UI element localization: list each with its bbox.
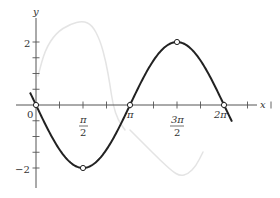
x-axis-label: x (260, 99, 266, 110)
data-point (33, 102, 38, 107)
tick-label-y-neg2: −2 (15, 164, 30, 175)
tick-label-3pi-half-num: 3π (171, 114, 184, 125)
data-point (127, 102, 132, 107)
faint-curve (38, 22, 203, 175)
tick-label-pi-half-num: π (79, 114, 87, 125)
data-point (221, 102, 226, 107)
origin-label: 0 (27, 109, 33, 120)
faint-curve-lower (130, 130, 203, 175)
tick-label-2pi: 2π (213, 109, 227, 120)
data-point (174, 39, 179, 44)
y-axis-label: y (32, 6, 39, 17)
axis-labels: x y 0 π 2 π 3π 2 2π 2 −2 (15, 6, 266, 175)
data-point (80, 165, 85, 170)
tick-label-y-2: 2 (24, 38, 30, 49)
tick-label-pi-half-den: 2 (80, 127, 86, 138)
axes (16, 18, 271, 188)
tick-label-3pi-half-den: 2 (174, 127, 180, 138)
sine-chart: x y 0 π 2 π 3π 2 2π 2 −2 (0, 0, 280, 198)
